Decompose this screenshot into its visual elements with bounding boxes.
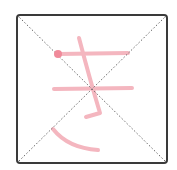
stroke-start-dot [54,50,62,58]
stroke-3 [79,38,100,117]
character-strokes [53,38,132,150]
stroke-order-grid [0,0,177,170]
stroke-4 [53,129,98,150]
stroke-1 [58,53,128,54]
